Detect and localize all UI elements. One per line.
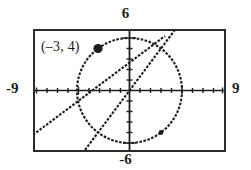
y-min-label: -6	[0, 152, 251, 167]
graphing-calculator-screenshot: 6 -6 -9 9	[0, 0, 251, 170]
x-min-label: -9	[6, 81, 19, 96]
opposite-point-marker	[159, 130, 164, 135]
y-max-label: 6	[0, 6, 251, 21]
tangency-point-marker	[93, 44, 102, 53]
tangency-point-label: (–3, 4)	[41, 40, 80, 54]
x-max-label: 9	[232, 81, 240, 96]
